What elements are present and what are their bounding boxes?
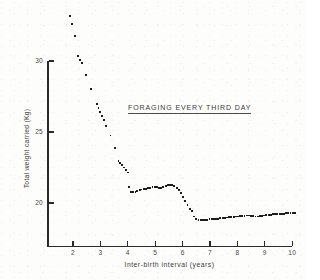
data-point [90, 88, 92, 90]
x-tick-3 [100, 241, 101, 246]
data-point [233, 216, 235, 218]
data-point [162, 186, 164, 188]
data-point [204, 219, 206, 221]
data-point [259, 215, 261, 217]
data-point [176, 187, 178, 189]
x-tick-2 [72, 241, 73, 246]
data-point [261, 215, 263, 217]
data-point [143, 188, 145, 190]
data-point [145, 188, 147, 190]
data-point [202, 219, 204, 221]
data-point [255, 216, 257, 218]
data-point [125, 169, 127, 171]
data-point [285, 212, 287, 214]
data-point [79, 59, 81, 61]
data-point [77, 55, 79, 57]
data-point [198, 219, 200, 221]
data-point [105, 125, 107, 127]
y-tick-30 [49, 60, 54, 61]
data-point [158, 187, 160, 189]
x-tick-label-6: 6 [176, 249, 190, 256]
data-point [228, 216, 230, 218]
data-point [222, 217, 224, 219]
data-point [169, 184, 171, 186]
data-point [272, 213, 274, 215]
x-tick-6 [182, 241, 183, 246]
data-point [224, 217, 226, 219]
data-point [173, 185, 175, 187]
data-point [241, 215, 243, 217]
y-tick-25 [49, 131, 54, 132]
data-point [250, 215, 252, 217]
data-point [74, 35, 76, 37]
x-tick-9 [264, 241, 265, 246]
data-point [294, 212, 296, 214]
data-point [252, 215, 254, 217]
data-point [281, 213, 283, 215]
data-point [268, 214, 270, 216]
data-point [141, 189, 143, 191]
data-point [193, 216, 195, 218]
data-point [130, 191, 132, 193]
data-point [230, 216, 232, 218]
data-point [235, 216, 237, 218]
x-tick-10 [292, 241, 293, 246]
x-tick-label-10: 10 [285, 249, 299, 256]
data-point [237, 216, 239, 218]
data-point [85, 74, 87, 76]
x-tick-label-4: 4 [121, 249, 135, 256]
data-point [213, 218, 215, 220]
data-point [290, 212, 292, 214]
data-point [128, 186, 130, 188]
data-point [160, 187, 162, 189]
x-tick-8 [237, 241, 238, 246]
data-point [200, 219, 202, 221]
data-point [211, 218, 213, 220]
data-point [167, 184, 169, 186]
data-point [265, 214, 267, 216]
data-point [257, 216, 259, 218]
data-point [248, 215, 250, 217]
x-tick-label-9: 9 [258, 249, 272, 256]
data-point [154, 186, 156, 188]
data-point [217, 218, 219, 220]
data-point [279, 213, 281, 215]
data-point [209, 218, 211, 220]
chart-annotation-label: FORAGING EVERY THIRD DAY [128, 104, 251, 114]
data-point [147, 187, 149, 189]
data-point [149, 187, 151, 189]
data-point [121, 164, 123, 166]
data-point [156, 186, 158, 188]
data-point [110, 135, 112, 137]
data-point [101, 115, 103, 117]
data-point [132, 191, 134, 193]
x-tick-label-5: 5 [148, 249, 162, 256]
data-point [184, 200, 186, 202]
data-point [114, 147, 116, 149]
x-tick-7 [209, 241, 210, 246]
data-point [239, 215, 241, 217]
x-tick-label-7: 7 [203, 249, 217, 256]
data-point [139, 189, 141, 191]
data-point [69, 15, 71, 17]
data-point [119, 162, 121, 164]
data-point [81, 62, 83, 64]
data-point [191, 210, 193, 212]
data-point [287, 212, 289, 214]
data-point [206, 219, 208, 221]
data-point [226, 217, 228, 219]
data-point [118, 160, 120, 162]
x-tick-4 [127, 241, 128, 246]
data-point [103, 119, 105, 121]
y-axis-line [47, 61, 49, 247]
data-point [246, 215, 248, 217]
data-point [292, 212, 294, 214]
y-tick-label-30: 30 [27, 57, 43, 64]
data-point [274, 213, 276, 215]
data-point [171, 184, 173, 186]
data-point [182, 196, 184, 198]
data-point [152, 186, 154, 188]
data-point [135, 191, 137, 193]
x-tick-label-8: 8 [230, 249, 244, 256]
data-point [187, 204, 189, 206]
